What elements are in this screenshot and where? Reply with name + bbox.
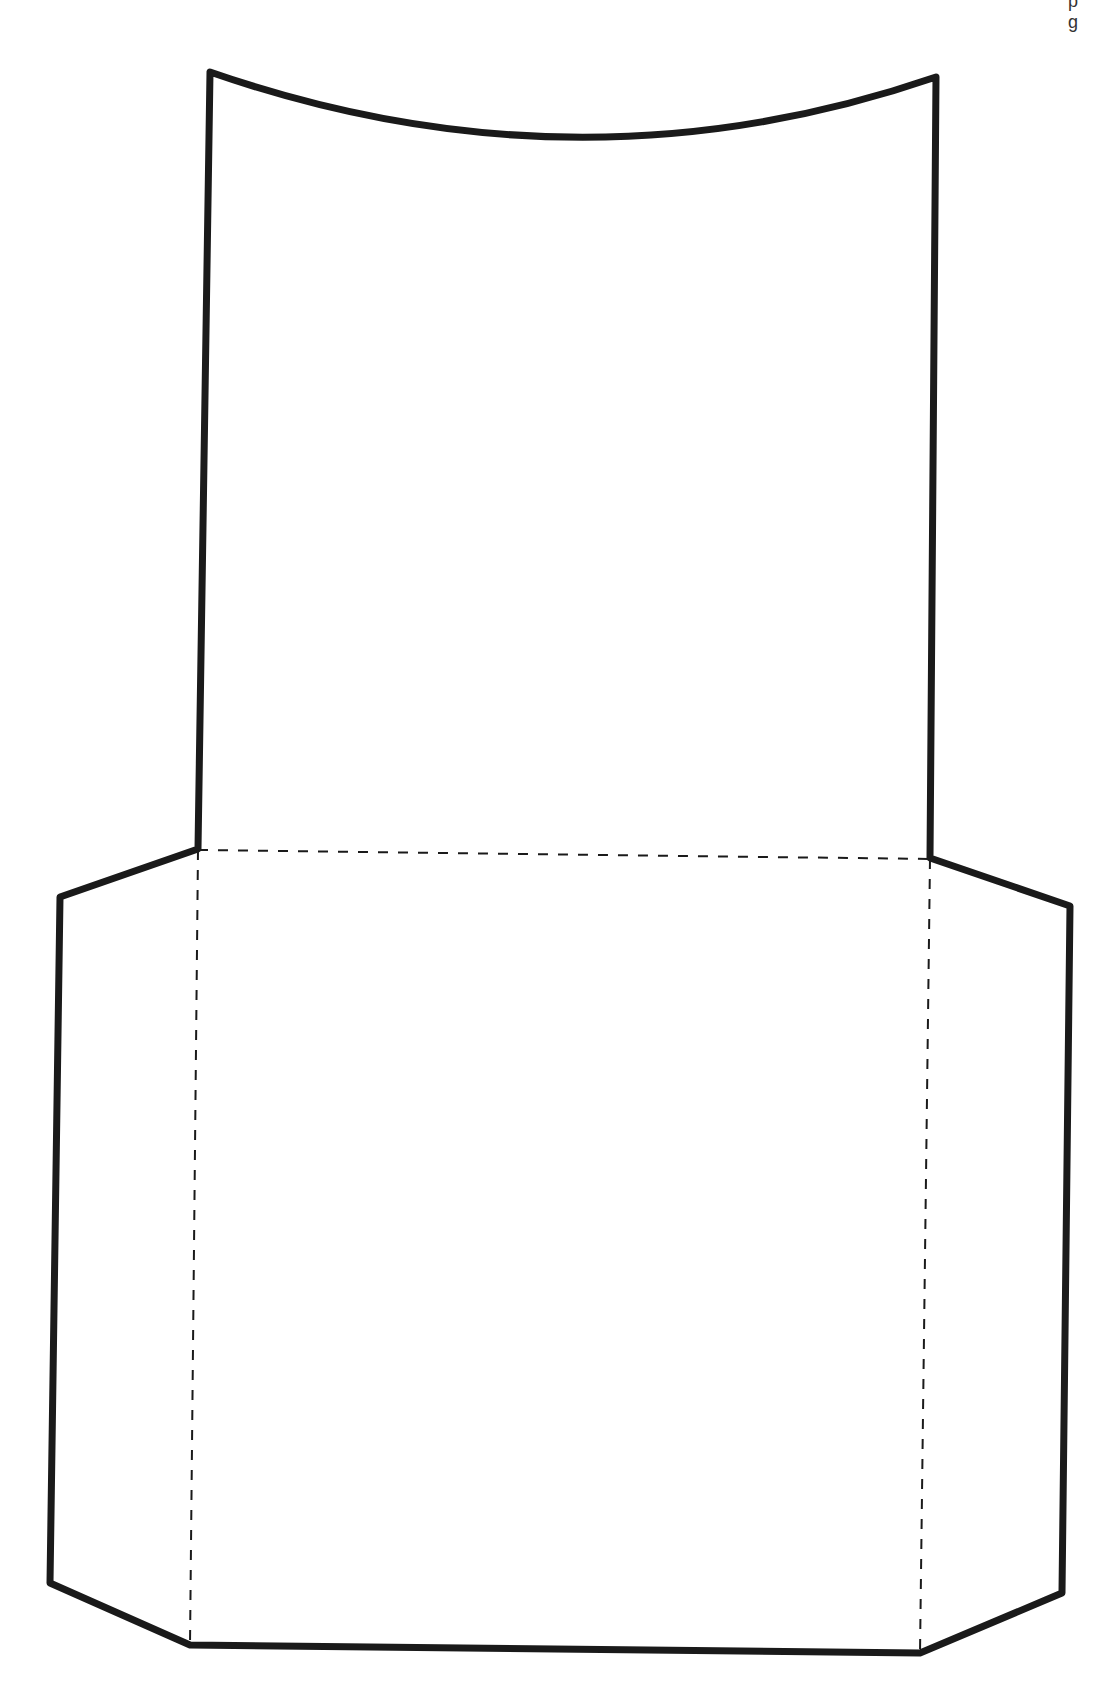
pocket-template-diagram [0,0,1116,1696]
cut-outline [50,72,1070,1653]
fold-left-line [190,850,198,1645]
fold-right-line [920,859,930,1653]
fold-top-line [198,850,930,859]
fold-lines [190,850,930,1653]
